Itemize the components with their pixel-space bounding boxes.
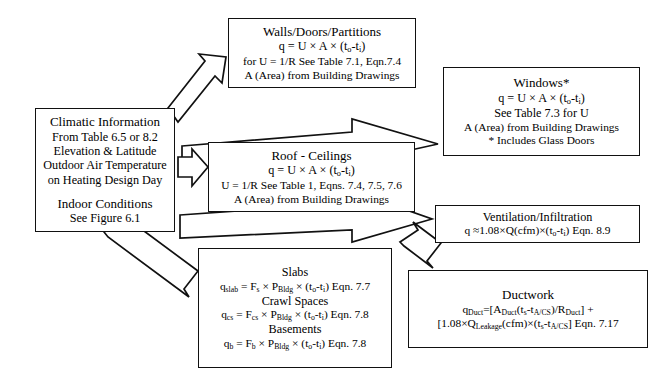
ductwork-line-1: qDuct=[ADuct(ts-tA/CS)/RDuct] + bbox=[462, 303, 593, 317]
box-roof-ceilings[interactable]: Roof - Ceilings q = U × A × (to-ti) U = … bbox=[208, 142, 415, 212]
climatic-line-0: Climatic Information bbox=[50, 114, 160, 129]
ventilation-line-0: Ventilation/Infiltration bbox=[483, 210, 593, 224]
roof-line-1: q = U × A × (to-ti) bbox=[268, 163, 355, 179]
walls-line-1: q = U × A × (to-ti) bbox=[279, 39, 366, 55]
slabs-line-4: Basements bbox=[269, 322, 322, 336]
slabs-line-2: Crawl Spaces bbox=[262, 294, 329, 308]
slabs-line-3: qcs = Fcs × PBldg × (to-ti) Eqn. 7.8 bbox=[221, 308, 369, 322]
diagram-canvas: Climatic Information From Table 6.5 or 8… bbox=[0, 0, 650, 385]
walls-line-3: A (Area) from Building Drawings bbox=[244, 69, 399, 82]
ductwork-line-2: [1.08×QLeakage(cfm)×(ts-tA/CS] Eqn. 7.17 bbox=[437, 317, 618, 331]
arrow-climatic-to-walls bbox=[168, 54, 226, 122]
walls-line-0: Walls/Doors/Partitions bbox=[263, 24, 381, 39]
walls-line-2: for U = 1/R See Table 7.1, Eqn.7.4 bbox=[243, 55, 401, 68]
box-slabs-crawl-basements[interactable]: Slabs qslab = Fs × PBldg × (to-ti) Eqn. … bbox=[198, 248, 392, 368]
roof-line-2: U = 1/R See Table 1, Eqns. 7.4, 7.5, 7.6 bbox=[221, 179, 402, 192]
climatic-line-1: From Table 6.5 or 8.2 bbox=[52, 130, 158, 144]
slabs-line-1: qslab = Fs × PBldg × (to-ti) Eqn. 7.7 bbox=[220, 280, 370, 294]
climatic-line-3: Outdoor Air Temperature bbox=[43, 158, 166, 172]
box-ventilation-infiltration[interactable]: Ventilation/Infiltration q ≈1.08×Q(cfm)×… bbox=[435, 205, 640, 243]
roof-line-0: Roof - Ceilings bbox=[271, 148, 351, 163]
box-ductwork[interactable]: Ductwork qDuct=[ADuct(ts-tA/CS)/RDuct] +… bbox=[408, 270, 648, 348]
box-windows[interactable]: Windows* q = U × A × (to-ti) See Table 7… bbox=[443, 67, 640, 156]
slabs-line-5: qb = Fb × PBldg × (to-ti) Eqn. 7.8 bbox=[224, 337, 366, 351]
windows-line-3: A (Area) from Building Drawings bbox=[464, 121, 619, 134]
windows-line-2: See Table 7.3 for U bbox=[494, 106, 589, 120]
roof-line-3: A (Area) from Building Drawings bbox=[234, 193, 389, 206]
climatic-line-4: on Heating Design Day bbox=[48, 173, 163, 187]
box-walls-doors-partitions[interactable]: Walls/Doors/Partitions q = U × A × (to-t… bbox=[228, 18, 416, 88]
ventilation-line-1: q ≈1.08×Q(cfm)×(to-ti) Eqn. 8.9 bbox=[465, 224, 611, 238]
slabs-line-0: Slabs bbox=[282, 265, 308, 279]
climatic-line-5: Indoor Conditions bbox=[58, 196, 153, 211]
climatic-line-6: See Figure 6.1 bbox=[70, 211, 141, 225]
windows-line-0: Windows* bbox=[514, 75, 570, 90]
windows-line-1: q = U × A × (to-ti) bbox=[498, 91, 585, 107]
climatic-line-2: Elevation & Latitude bbox=[54, 144, 157, 158]
ductwork-line-0: Ductwork bbox=[502, 287, 554, 302]
box-climatic-information[interactable]: Climatic Information From Table 6.5 or 8… bbox=[35, 108, 175, 232]
windows-line-4: * Includes Glass Doors bbox=[489, 134, 595, 147]
